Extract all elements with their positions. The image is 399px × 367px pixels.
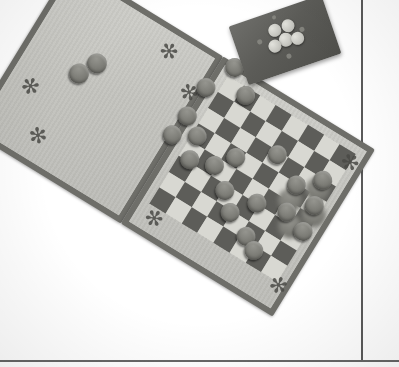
tray-checker-piece[interactable]: [289, 30, 306, 47]
tray-speck: [286, 53, 292, 59]
tray-speck: [271, 15, 276, 20]
tray-speck: [257, 39, 263, 45]
piece-tray[interactable]: [229, 0, 342, 85]
tray-pieces[interactable]: [229, 0, 322, 27]
table-edge-vertical-line: [361, 0, 363, 362]
photo-scene: ✻✻✻✻ ✻✻✻ Checkers board game photograph …: [0, 0, 399, 367]
scene-title: Checkers board game photograph: [0, 0, 1, 1]
scene-description: Overhead photo of a folding checkers/dra…: [0, 0, 1, 1]
table-edge-horizontal-line: [0, 360, 399, 362]
tray-speck: [299, 26, 305, 32]
